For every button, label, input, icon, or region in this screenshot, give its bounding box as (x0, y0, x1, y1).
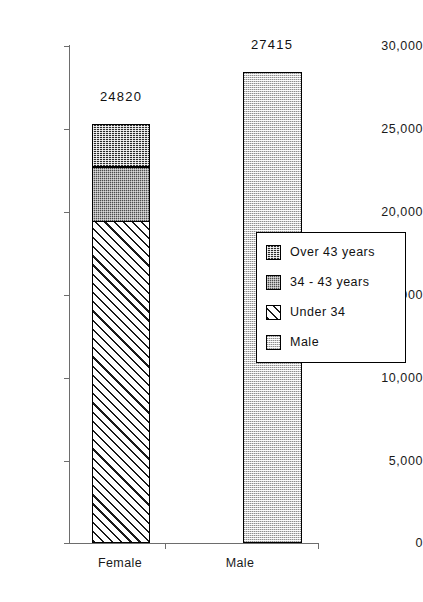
y-axis-label-0: 0 (365, 537, 423, 549)
legend-label-34-43: 34 - 43 years (290, 275, 369, 289)
legend-swatch-over-43-icon (266, 245, 281, 260)
y-tick-10000 (64, 378, 70, 379)
y-axis-label-5000: 5,000 (365, 455, 423, 467)
y-tick-5000 (64, 461, 70, 462)
legend-item-34-43: 34 - 43 years (266, 273, 369, 291)
bar-segment-female-34-43 (92, 167, 150, 222)
value-label-male: 27415 (212, 37, 332, 52)
y-axis-label-30000: 30,000 (365, 40, 423, 52)
x-tick-1 (165, 544, 166, 549)
y-tick-0 (64, 543, 70, 544)
legend-item-over-43: Over 43 years (266, 243, 375, 261)
y-tick-30000 (64, 46, 70, 47)
legend-label-under-34: Under 34 (290, 305, 345, 319)
legend-swatch-34-43-icon (266, 275, 281, 290)
y-axis-label-10000: 10,000 (365, 372, 423, 384)
legend-item-under-34: Under 34 (266, 303, 345, 321)
x-axis-label-female: Female (60, 556, 180, 570)
legend-swatch-male-icon (266, 335, 281, 350)
bar-segment-female-under-34 (92, 221, 150, 543)
y-axis-label-25000: 25,000 (365, 123, 423, 135)
legend-label-over-43: Over 43 years (290, 245, 375, 259)
y-tick-20000 (64, 212, 70, 213)
y-tick-15000 (64, 295, 70, 296)
chart-legend: Over 43 years 34 - 43 years Under 34 Mal… (256, 232, 406, 363)
legend-label-male: Male (290, 335, 319, 349)
y-axis-label-20000: 20,000 (365, 206, 423, 218)
stacked-bar-chart: 30,000 25,000 20,000 15,000 10,000 5,000… (0, 0, 423, 602)
y-tick-25000 (64, 129, 70, 130)
legend-swatch-under-34-icon (266, 305, 281, 320)
x-tick-2 (318, 544, 319, 549)
bar-segment-female-over-43 (92, 124, 150, 167)
legend-item-male: Male (266, 333, 319, 351)
x-axis-label-male: Male (180, 556, 300, 570)
x-axis-line (69, 543, 319, 544)
value-label-female: 24820 (61, 89, 181, 104)
